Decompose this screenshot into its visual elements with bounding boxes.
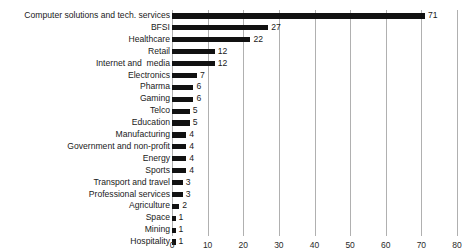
- category-label: Gaming: [140, 93, 170, 105]
- category-label: Manufacturing: [116, 129, 170, 141]
- bar-value-label: 71: [428, 10, 438, 22]
- category-label: Energy: [143, 153, 170, 165]
- category-label: Professional services: [89, 189, 170, 201]
- category-label: Pharma: [140, 81, 170, 93]
- category-label: Transport and travel: [93, 177, 170, 189]
- bar-value-label: 4: [189, 165, 194, 177]
- bar-value-label: 5: [193, 117, 198, 129]
- category-label: Mining: [145, 224, 170, 236]
- bar-row: Electronics7: [0, 70, 473, 82]
- bar: [172, 85, 193, 90]
- bar-value-label: 2: [182, 200, 187, 212]
- bar: [172, 109, 190, 114]
- bar: [172, 144, 186, 149]
- x-tick-label: 70: [408, 240, 434, 250]
- bar-value-label: 3: [186, 177, 191, 189]
- bar-row: Professional services3: [0, 189, 473, 201]
- bar-row: Space1: [0, 212, 473, 224]
- bar: [172, 180, 183, 185]
- bar: [172, 61, 215, 66]
- bar-value-label: 6: [196, 93, 201, 105]
- bar-row: Retail12: [0, 46, 473, 58]
- x-tick-label: 60: [373, 240, 399, 250]
- category-label: Sports: [145, 165, 170, 177]
- category-label: Electronics: [128, 70, 170, 82]
- bar: [172, 168, 186, 173]
- bar: [172, 120, 190, 125]
- category-label: Education: [132, 117, 170, 129]
- bar: [172, 73, 197, 78]
- bar: [172, 13, 425, 18]
- bar-row: Mining1: [0, 224, 473, 236]
- category-label: Retail: [148, 46, 170, 58]
- bar-row: Energy4: [0, 153, 473, 165]
- bar: [172, 216, 176, 221]
- bar: [172, 192, 183, 197]
- x-tick-label: 40: [302, 240, 328, 250]
- category-label: Healthcare: [128, 34, 170, 46]
- category-label: Internet and media: [96, 58, 170, 70]
- bar-value-label: 22: [253, 34, 263, 46]
- bar: [172, 49, 215, 54]
- bar-value-label: 1: [179, 212, 184, 224]
- bar: [172, 228, 176, 233]
- bar-row: Pharma6: [0, 81, 473, 93]
- bar-value-label: 1: [179, 224, 184, 236]
- x-tick-label: 50: [337, 240, 363, 250]
- bar-row: Government and non-profit4: [0, 141, 473, 153]
- bar-row: Healthcare22: [0, 34, 473, 46]
- x-tick-label: 10: [195, 240, 221, 250]
- category-label: Space: [146, 212, 170, 224]
- bar-row: Transport and travel3: [0, 177, 473, 189]
- x-tick-label: 80: [444, 240, 470, 250]
- bar: [172, 37, 250, 42]
- bar-row: BFSI27: [0, 22, 473, 34]
- bar-value-label: 6: [196, 81, 201, 93]
- bar-value-label: 12: [218, 46, 228, 58]
- bar: [172, 25, 268, 30]
- bar-row: Telco5: [0, 105, 473, 117]
- bar-value-label: 5: [193, 105, 198, 117]
- bar-value-label: 27: [271, 22, 281, 34]
- category-label: Telco: [150, 105, 170, 117]
- bar-row: Sports4: [0, 165, 473, 177]
- x-tick-label: 0: [159, 240, 185, 250]
- bar: [172, 97, 193, 102]
- bar-row: Computer solutions and tech. services71: [0, 10, 473, 22]
- bar-value-label: 3: [186, 189, 191, 201]
- x-tick-label: 30: [266, 240, 292, 250]
- bar-chart: Computer solutions and tech. services71B…: [0, 0, 473, 252]
- bar: [172, 156, 186, 161]
- bar: [172, 204, 179, 209]
- category-label: Government and non-profit: [67, 141, 170, 153]
- bar-row: Gaming6: [0, 93, 473, 105]
- plot-area: Computer solutions and tech. services71B…: [0, 0, 473, 252]
- bar: [172, 132, 186, 137]
- category-label: BFSI: [151, 22, 170, 34]
- bar-row: Manufacturing4: [0, 129, 473, 141]
- bar-value-label: 7: [200, 70, 205, 82]
- category-label: Agriculture: [129, 200, 170, 212]
- category-label: Computer solutions and tech. services: [24, 10, 170, 22]
- bar-value-label: 4: [189, 129, 194, 141]
- bar-row: Education5: [0, 117, 473, 129]
- bar-value-label: 4: [189, 153, 194, 165]
- bar-row: Internet and media12: [0, 58, 473, 70]
- bar-value-label: 4: [189, 141, 194, 153]
- bar-value-label: 12: [218, 58, 228, 70]
- x-tick-label: 20: [230, 240, 256, 250]
- bar-row: Agriculture2: [0, 200, 473, 212]
